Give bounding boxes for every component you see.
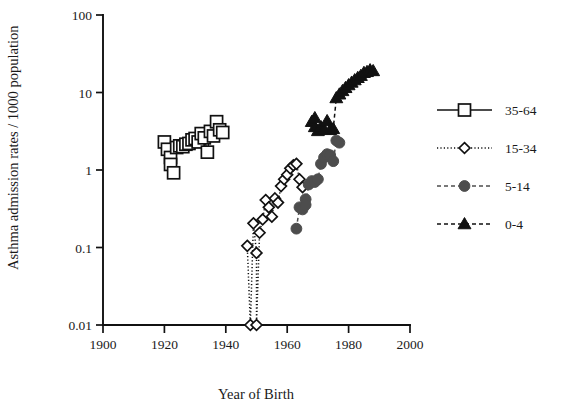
data-point [334, 137, 345, 148]
chart-canvas: 0.010.1110100 190019201940196019802000 3… [0, 0, 568, 412]
legend-label: 5-14 [505, 179, 530, 194]
data-point [300, 199, 311, 210]
y-tick-label: 10 [79, 86, 93, 101]
y-tick-label: 0.01 [68, 318, 92, 333]
legend-marker [459, 181, 470, 192]
legend-label: 35-64 [505, 103, 537, 118]
data-point [313, 174, 324, 185]
legend-label: 0-4 [505, 217, 523, 232]
data-point [201, 146, 213, 158]
legend-label: 15-34 [505, 141, 537, 156]
x-tick-label: 1940 [212, 337, 239, 352]
data-point [291, 223, 302, 234]
data-point [328, 156, 339, 167]
x-tick-label: 1900 [90, 337, 117, 352]
y-tick-label: 1 [85, 163, 92, 178]
x-tick-label: 1960 [274, 337, 301, 352]
data-point [217, 126, 229, 138]
x-tick-label: 2000 [397, 337, 424, 352]
legend-marker [459, 104, 471, 116]
y-tick-label: 0.1 [75, 241, 92, 256]
x-tick-label: 1980 [335, 337, 362, 352]
x-axis-title: Year of Birth [218, 386, 295, 402]
x-tick-label: 1920 [151, 337, 178, 352]
asthma-admission-rates-chart: 0.010.1110100 190019201940196019802000 3… [0, 0, 568, 412]
y-tick-label: 100 [72, 8, 93, 23]
y-axis-title: Asthma admission rates / 1000 population [5, 25, 21, 270]
data-point [168, 167, 180, 179]
